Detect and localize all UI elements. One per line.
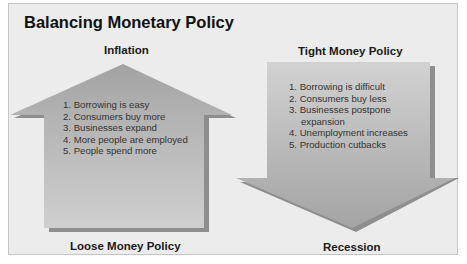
tight-money-policy-label: Tight Money Policy bbox=[298, 45, 403, 57]
list-item: 4. Unemployment increases bbox=[289, 127, 408, 139]
list-item-continuation: expansion bbox=[289, 116, 408, 128]
list-item: 3. Businesses expand bbox=[63, 122, 188, 134]
recession-label: Recession bbox=[323, 241, 381, 253]
list-item: 2. Consumers buy more bbox=[63, 111, 188, 123]
loose-money-policy-label: Loose Money Policy bbox=[70, 240, 181, 252]
list-item: 2. Consumers buy less bbox=[289, 93, 408, 105]
tight-money-effects-list: 1. Borrowing is difficult 2. Consumers b… bbox=[289, 81, 408, 150]
list-item: 5. People spend more bbox=[63, 145, 188, 157]
list-item: 5. Production cutbacks bbox=[289, 139, 408, 151]
inflation-label: Inflation bbox=[104, 44, 149, 56]
list-item: 4. More people are employed bbox=[63, 134, 188, 146]
loose-money-effects-list: 1. Borrowing is easy 2. Consumers buy mo… bbox=[63, 99, 188, 157]
list-item: 3. Businesses postpone bbox=[289, 104, 408, 116]
list-item: 1. Borrowing is difficult bbox=[289, 81, 408, 93]
list-item: 1. Borrowing is easy bbox=[63, 99, 188, 111]
